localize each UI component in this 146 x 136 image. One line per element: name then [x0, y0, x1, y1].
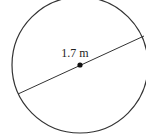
circle-diagram: 1.7 m: [0, 0, 146, 136]
diameter-label: 1.7 m: [61, 46, 89, 60]
center-point: [77, 62, 82, 67]
